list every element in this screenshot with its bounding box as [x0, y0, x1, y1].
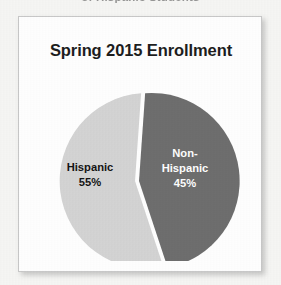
pie-label-non-hispanic-line2: Hispanic [162, 162, 209, 174]
pie-label-non-hispanic-value: 45% [174, 177, 196, 189]
chart-card: Spring 2015 Enrollment Hispanic 55% [18, 16, 262, 272]
pie-chart: Hispanic 55% Non- Hispanic 45% [19, 61, 263, 261]
pie-label-hispanic-name: Hispanic [67, 161, 114, 173]
clipped-header-label: of Hispanic Students [0, 0, 281, 3]
pie-label-non-hispanic-line1: Non- [172, 147, 198, 159]
chart-title: Spring 2015 Enrollment [19, 41, 263, 60]
scanned-page: of Hispanic Students Spring 2015 Enrollm… [0, 0, 281, 285]
pie-chart-svg: Hispanic 55% Non- Hispanic 45% [19, 61, 263, 261]
pie-label-hispanic-value: 55% [79, 176, 101, 188]
clipped-header-text: of Hispanic Students [0, 0, 281, 5]
